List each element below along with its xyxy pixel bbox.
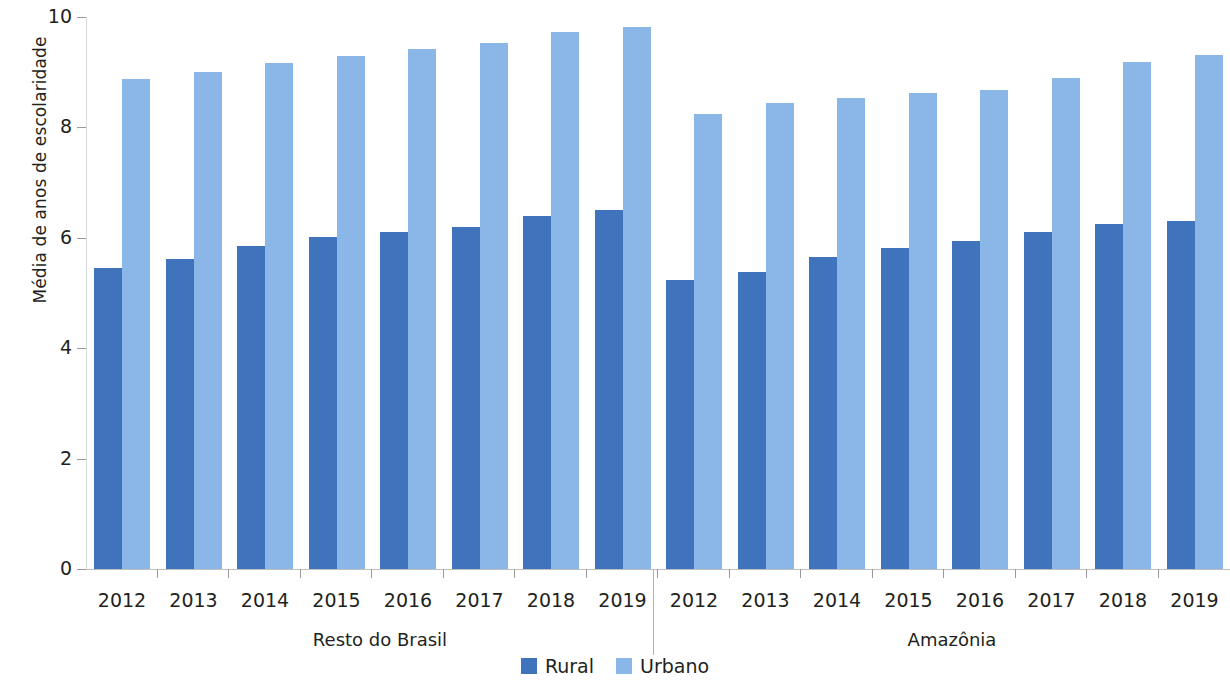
x-axis-label-2016-1: 2016	[374, 589, 442, 611]
y-axis-tick-label: 10	[28, 5, 72, 27]
bar-urbano-2019-2	[1195, 55, 1223, 569]
group-label-amazonia: Amazônia	[666, 629, 1230, 650]
y-axis-tick-label: 8	[28, 115, 72, 137]
bar-urbano-2016-2	[980, 90, 1008, 569]
y-axis-title: Média de anos de escolaridade	[30, 10, 50, 330]
legend-label: Rural	[545, 655, 594, 677]
bar-rural-2015-1	[309, 237, 337, 569]
x-axis-tick	[800, 569, 801, 578]
bar-urbano-2016-1	[408, 49, 436, 569]
bar-urbano-2017-2	[1052, 78, 1080, 569]
group-separator	[653, 569, 654, 655]
bar-rural-2013-2	[738, 272, 766, 569]
y-axis-tick	[77, 238, 86, 239]
group-label-resto-do-brasil: Resto do Brasil	[94, 629, 666, 650]
bar-rural-2016-2	[952, 241, 980, 569]
x-axis-label-2012-1: 2012	[88, 589, 156, 611]
bar-urbano-2019-1	[623, 27, 651, 569]
bar-rural-2016-1	[380, 232, 408, 569]
legend-swatch-icon	[616, 658, 632, 674]
bar-urbano-2013-2	[766, 103, 794, 569]
x-axis-tick	[1015, 569, 1016, 578]
y-axis-tick-label: 2	[28, 447, 72, 469]
bar-urbano-2015-2	[909, 93, 937, 569]
x-axis-tick	[872, 569, 873, 578]
bar-rural-2017-1	[452, 227, 480, 569]
y-axis-tick-label: 6	[28, 226, 72, 248]
x-axis-tick	[657, 569, 658, 578]
x-axis-tick	[443, 569, 444, 578]
bar-rural-2014-2	[809, 257, 837, 569]
x-axis-tick	[371, 569, 372, 578]
x-axis-line	[86, 569, 1230, 570]
y-axis-tick-label: 0	[28, 557, 72, 579]
bar-rural-2012-1	[94, 268, 122, 569]
bar-rural-2012-2	[666, 280, 694, 569]
y-axis-line	[86, 17, 87, 569]
x-axis-tick	[300, 569, 301, 578]
x-axis-tick	[729, 569, 730, 578]
bar-urbano-2014-2	[837, 98, 865, 569]
bar-chart: Média de anos de escolaridade 0246810 20…	[0, 0, 1230, 684]
y-axis-tick-label: 4	[28, 336, 72, 358]
bar-rural-2015-2	[881, 248, 909, 569]
bar-rural-2014-1	[237, 246, 265, 569]
x-axis-label-2014-1: 2014	[231, 589, 299, 611]
bar-rural-2018-2	[1095, 224, 1123, 569]
x-axis-tick	[943, 569, 944, 578]
x-axis-label-2018-1: 2018	[517, 589, 585, 611]
x-axis-label-2018-2: 2018	[1089, 589, 1157, 611]
x-axis-label-2017-1: 2017	[446, 589, 514, 611]
bar-rural-2019-2	[1167, 221, 1195, 569]
plot-area: 0246810 20122013201420152016201720182019…	[86, 17, 1230, 569]
x-axis-tick	[228, 569, 229, 578]
bar-urbano-2018-1	[551, 32, 579, 569]
bar-urbano-2015-1	[337, 56, 365, 569]
y-axis-tick	[77, 569, 86, 570]
legend-item-urbano: Urbano	[616, 655, 709, 677]
bar-rural-2019-1	[595, 210, 623, 569]
x-axis-tick	[586, 569, 587, 578]
y-axis-tick	[77, 17, 86, 18]
x-axis-label-2019-1: 2019	[589, 589, 657, 611]
x-axis-label-2019-2: 2019	[1161, 589, 1229, 611]
legend-item-rural: Rural	[521, 655, 594, 677]
x-axis-label-2013-1: 2013	[160, 589, 228, 611]
x-axis-label-2012-2: 2012	[660, 589, 728, 611]
x-axis-label-2017-2: 2017	[1018, 589, 1086, 611]
bar-urbano-2018-2	[1123, 62, 1151, 569]
x-axis-label-2013-2: 2013	[732, 589, 800, 611]
chart-legend: RuralUrbano	[0, 655, 1230, 677]
x-axis-label-2015-2: 2015	[875, 589, 943, 611]
bar-urbano-2017-1	[480, 43, 508, 569]
x-axis-label-2014-2: 2014	[803, 589, 871, 611]
bar-rural-2017-2	[1024, 232, 1052, 569]
x-axis-tick	[157, 569, 158, 578]
bar-urbano-2012-1	[122, 79, 150, 569]
bar-rural-2018-1	[523, 216, 551, 569]
x-axis-tick	[1158, 569, 1159, 578]
x-axis-tick	[514, 569, 515, 578]
x-axis-tick	[1086, 569, 1087, 578]
bar-urbano-2012-2	[694, 114, 722, 569]
bar-rural-2013-1	[166, 259, 194, 569]
legend-swatch-icon	[521, 658, 537, 674]
x-axis-label-2015-1: 2015	[303, 589, 371, 611]
y-axis-tick	[77, 348, 86, 349]
y-axis-tick	[77, 459, 86, 460]
bar-urbano-2014-1	[265, 63, 293, 569]
legend-label: Urbano	[640, 655, 709, 677]
y-axis-tick	[77, 127, 86, 128]
bar-urbano-2013-1	[194, 72, 222, 569]
x-axis-label-2016-2: 2016	[946, 589, 1014, 611]
